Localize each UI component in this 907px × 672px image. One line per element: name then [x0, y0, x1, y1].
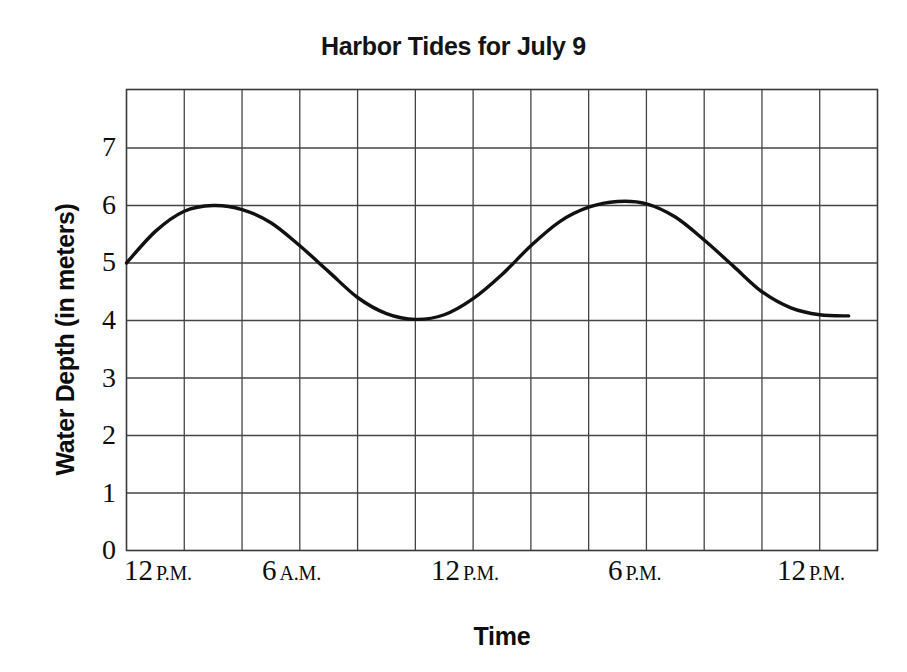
grid-lines [127, 90, 878, 551]
tide-chart-figure: Harbor Tides for July 9 Water Depth (in … [0, 0, 907, 672]
plot-area [0, 0, 907, 672]
horizontal-gridlines [127, 148, 878, 493]
tide-curve [127, 201, 849, 319]
